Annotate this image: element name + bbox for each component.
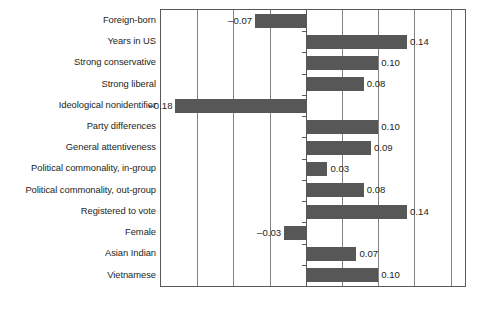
category-label: Strong conservative <box>0 57 156 67</box>
bar-value-label: –0.18 <box>148 101 172 111</box>
bar-value-label: 0.14 <box>410 37 429 47</box>
axis-tick <box>302 137 306 138</box>
gridline <box>197 10 198 286</box>
axis-tick <box>302 201 306 202</box>
category-label: Party differences <box>0 121 156 131</box>
axis-tick <box>302 180 306 181</box>
gridline <box>270 10 271 286</box>
bar <box>255 14 306 28</box>
category-label: General attentiveness <box>0 142 156 152</box>
category-label: Years in US <box>0 36 156 46</box>
category-label: Female <box>0 227 156 237</box>
gridline <box>414 10 415 286</box>
bar-value-label: –0.07 <box>228 16 252 26</box>
axis-tick <box>302 31 306 32</box>
axis-tick <box>302 52 306 53</box>
bar <box>306 77 364 91</box>
bar-chart-figure: Foreign-bornYears in USStrong conservati… <box>0 0 478 314</box>
bar <box>306 56 378 70</box>
bar-value-label: 0.09 <box>374 143 393 153</box>
bar <box>306 205 407 219</box>
bar-value-label: –0.03 <box>257 228 281 238</box>
axis-tick <box>302 159 306 160</box>
bar-value-label: 0.14 <box>410 207 429 217</box>
bar-value-label: 0.10 <box>381 270 400 280</box>
gridline <box>451 10 452 286</box>
category-label: Political commonality, in-group <box>0 163 156 173</box>
axis-tick <box>302 74 306 75</box>
axis-tick <box>302 116 306 117</box>
axis-tick <box>302 222 306 223</box>
bar <box>284 226 306 240</box>
category-label-column: Foreign-bornYears in USStrong conservati… <box>0 9 156 287</box>
bar <box>306 120 378 134</box>
axis-tick <box>302 244 306 245</box>
bar-value-label: 0.08 <box>367 79 386 89</box>
bar <box>306 162 328 176</box>
bar-value-label: 0.10 <box>381 58 400 68</box>
bar <box>306 268 378 282</box>
bar-value-label: 0.07 <box>359 249 378 259</box>
plot-inner: –0.070.140.100.08–0.180.100.090.030.080.… <box>161 10 465 286</box>
category-label: Ideological nonidentifier <box>0 100 156 110</box>
plot-area: –0.070.140.100.08–0.180.100.090.030.080.… <box>160 9 466 287</box>
axis-tick <box>302 265 306 266</box>
bar-value-label: 0.10 <box>381 122 400 132</box>
bar <box>306 141 371 155</box>
bar <box>306 183 364 197</box>
bar-value-label: 0.08 <box>367 185 386 195</box>
category-label: Asian Indian <box>0 248 156 258</box>
category-label: Strong liberal <box>0 79 156 89</box>
bar <box>306 247 357 261</box>
bar <box>306 35 407 49</box>
category-label: Registered to vote <box>0 206 156 216</box>
category-label: Foreign-born <box>0 15 156 25</box>
bar <box>175 99 305 113</box>
category-label: Vietnamese <box>0 270 156 280</box>
axis-tick <box>302 95 306 96</box>
gridline <box>233 10 234 286</box>
bar-value-label: 0.03 <box>330 164 349 174</box>
category-label: Political commonality, out-group <box>0 185 156 195</box>
